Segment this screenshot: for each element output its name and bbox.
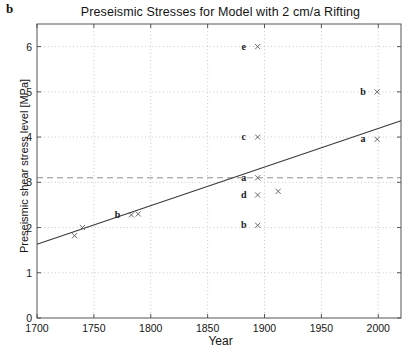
data-point-label: c (239, 132, 249, 142)
x-tick-label: 2000 (358, 323, 398, 334)
data-point-label: b (112, 210, 122, 220)
data-point-label: a (358, 134, 368, 144)
data-point-marker (255, 223, 260, 228)
y-tick-label: 1 (10, 268, 32, 279)
x-tick-label: 1800 (131, 323, 171, 334)
data-point-marker (255, 44, 260, 49)
x-tick-label: 1850 (188, 323, 228, 334)
figure-container: b Preseismic Stresses for Model with 2 c… (0, 0, 408, 357)
data-point-label: b (358, 87, 368, 97)
y-tick-label: 3 (10, 177, 32, 188)
data-point-marker (375, 89, 380, 94)
x-axis-label: Year (37, 334, 404, 348)
data-point-label: d (239, 190, 249, 200)
x-tick-label: 1900 (245, 323, 285, 334)
x-tick-label: 1750 (74, 323, 114, 334)
axes-frame (37, 24, 401, 318)
y-tick-label: 4 (10, 132, 32, 143)
chart-title: Preseismic Stresses for Model with 2 cm/… (37, 5, 404, 20)
data-point-label: a (239, 173, 249, 183)
data-point-marker (255, 134, 260, 139)
data-point-marker (375, 137, 380, 142)
x-tick-label: 1700 (17, 323, 57, 334)
y-tick-label: 5 (10, 87, 32, 98)
y-tick-label: 6 (10, 42, 32, 53)
data-point-marker (136, 211, 141, 216)
data-point-marker (129, 212, 134, 217)
plot-area (0, 0, 408, 357)
y-tick-label: 2 (10, 223, 32, 234)
data-point-marker (72, 233, 77, 238)
x-tick-label: 1950 (301, 323, 341, 334)
data-point-marker (276, 189, 281, 194)
y-axis-label: Preseismic shear stress level [MPa] (18, 46, 30, 286)
panel-label: b (6, 2, 13, 16)
data-point-label: e (239, 42, 249, 52)
data-point-label: b (239, 220, 249, 230)
data-point-marker (255, 192, 260, 197)
